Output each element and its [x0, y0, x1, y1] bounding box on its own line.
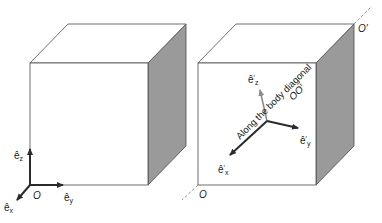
left-ez-label: êz	[14, 150, 24, 162]
left-cube	[30, 24, 186, 185]
left-ex-label: êx	[4, 202, 14, 214]
left-ex-arrow	[17, 185, 30, 200]
left-origin-label: O	[33, 190, 41, 201]
cube-rotation-diagram: êz O êy êx ê′z ê′y ê′x Along the body di…	[0, 0, 382, 223]
body-diagonal-dashed-upper	[354, 6, 372, 24]
body-diagonal-dashed-lower	[182, 185, 198, 200]
right-origin-label: O	[199, 189, 207, 200]
left-ey-label: êy	[64, 192, 74, 205]
left-cube-front-face	[30, 63, 148, 185]
far-corner-label: O′	[358, 23, 369, 34]
